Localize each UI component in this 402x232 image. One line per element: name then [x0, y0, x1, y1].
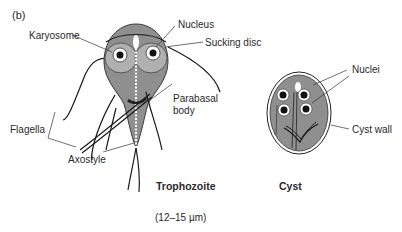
caption-trophozoite: Trophozoite [156, 181, 216, 192]
label-parabasal-body-1: Parabasal [173, 93, 218, 104]
panel-label: (b) [12, 10, 25, 21]
label-cyst-wall: Cyst wall [352, 124, 392, 135]
cyst-drawing [267, 70, 349, 154]
label-parabasal-body-2: body [173, 105, 195, 116]
label-flagella: Flagella [10, 124, 45, 135]
label-sucking-disc: Sucking disc [205, 37, 261, 48]
label-nuclei: Nuclei [352, 64, 380, 75]
caption-cyst: Cyst [279, 181, 302, 192]
caption-size: (12–15 µm) [155, 212, 206, 223]
label-axostyle: Axostyle [68, 154, 106, 165]
label-nucleus: Nucleus [178, 19, 214, 30]
label-karyosome: Karyosome [29, 30, 80, 41]
